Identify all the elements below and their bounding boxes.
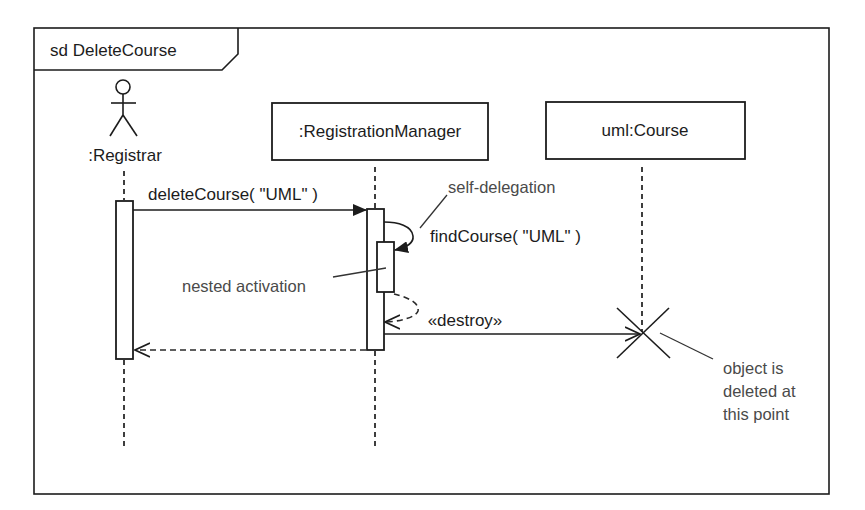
activation-bar: [116, 201, 133, 359]
destruction-x-icon: [617, 308, 670, 358]
message-findCourse: findCourse( "UML" ): [384, 222, 581, 250]
message-label: deleteCourse( "UML" ): [148, 185, 318, 204]
diagram-frame: sd DeleteCourse: [34, 28, 829, 494]
sequence-diagram: sd DeleteCourse :Registrar :Registration…: [0, 0, 865, 510]
frame-title: sd DeleteCourse: [50, 41, 177, 60]
annotation-text: nested activation: [182, 277, 306, 295]
actor-label: :Registrar: [88, 146, 162, 165]
object-label: uml:Course: [602, 121, 689, 140]
annotation-nested-activation: nested activation: [182, 268, 386, 295]
message-label: findCourse( "UML" ): [430, 227, 581, 246]
object-label: :RegistrationManager: [299, 122, 462, 141]
annotation-self-delegation: self-delegation: [420, 178, 555, 228]
lifeline-registrar: :Registrar: [88, 80, 162, 450]
message-deleteCourse: deleteCourse( "UML" ): [133, 185, 366, 210]
annotation-text-line-2: deleted at: [723, 382, 796, 400]
message-destroy: «destroy»: [384, 311, 640, 334]
nested-activation-bar: [377, 242, 394, 292]
actor-icon: [110, 80, 137, 136]
annotation-text-line-1: object is: [723, 359, 784, 377]
message-label: «destroy»: [428, 311, 503, 330]
annotation-text: self-delegation: [448, 178, 555, 196]
message-self-return: [385, 294, 418, 322]
annotation-object-deleted: object is deleted at this point: [660, 333, 796, 423]
annotation-text-line-3: this point: [723, 405, 789, 423]
